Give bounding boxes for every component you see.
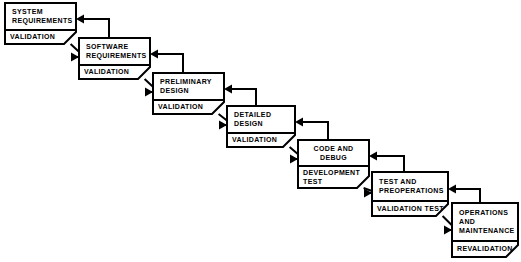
feedback-arrowhead <box>76 15 84 24</box>
forward-arrowhead <box>290 155 298 164</box>
waterfall-diagram-canvas: SYSTEMREQUIREMENTSVALIDATIONSOFTWAREREQU… <box>0 0 521 262</box>
stage-subsection-line: VALIDATION TEST <box>377 205 444 212</box>
stage-subsection-line: DEVELOPMENT <box>303 169 361 176</box>
stage-code-and-debug[interactable]: CODE ANDDEBUGDEVELOPMENTTEST <box>298 140 369 188</box>
feedback-arrow-fb-preliminary-to-software <box>150 50 183 74</box>
feedback-arrowhead <box>295 118 303 127</box>
feedback-arrow-fb-operations-to-test <box>448 185 480 204</box>
stage-title-line: SYSTEM <box>12 8 43 15</box>
feedback-arrowhead <box>150 50 158 59</box>
stage-subsection-line: REVALIDATION <box>457 245 513 252</box>
waterfall-diagram: SYSTEMREQUIREMENTSVALIDATIONSOFTWAREREQU… <box>0 0 521 262</box>
stage-system-requirements[interactable]: SYSTEMREQUIREMENTSVALIDATION <box>5 3 76 44</box>
feedback-arrow-fb-software-to-system <box>76 15 109 39</box>
forward-arrowhead <box>71 53 79 62</box>
stage-title-line: DESIGN <box>234 120 263 127</box>
feedback-arrowhead <box>369 152 377 161</box>
stage-title-line: TEST AND <box>379 178 417 185</box>
stage-software-requirements[interactable]: SOFTWAREREQUIREMENTSVALIDATION <box>79 38 150 79</box>
stage-title-line: PREOPERATIONS <box>379 187 444 194</box>
stage-subsection-line: VALIDATION <box>232 136 277 143</box>
stage-title-line: REQUIREMENTS <box>12 17 73 25</box>
stage-title-line: OPERATIONS <box>459 209 508 216</box>
stage-detailed-design[interactable]: DETAILEDDESIGNVALIDATION <box>227 106 295 147</box>
stage-preliminary-design[interactable]: PRELIMINARYDESIGNVALIDATION <box>153 73 224 114</box>
stage-operations-and-maintenance[interactable]: OPERATIONSANDMAINTENANCEREVALIDATION <box>452 203 518 257</box>
stage-title-line: SOFTWARE <box>86 43 128 50</box>
stage-title-line: CODE AND <box>314 145 354 152</box>
stage-subsection-line: VALIDATION <box>84 68 129 75</box>
forward-arrowhead <box>145 88 153 97</box>
stage-subsection-line: TEST <box>303 178 323 185</box>
feedback-arrow-fb-code-to-detailed <box>295 118 328 141</box>
stage-title-line: DESIGN <box>160 87 189 94</box>
stage-title-line: PRELIMINARY <box>160 78 212 85</box>
stage-title-line: MAINTENANCE <box>459 227 515 234</box>
stage-title-line: DEBUG <box>320 154 347 161</box>
stage-boxes-layer: SYSTEMREQUIREMENTSVALIDATIONSOFTWAREREQU… <box>5 3 518 257</box>
feedback-arrow-fb-test-to-code <box>369 152 404 173</box>
stage-title-line: DETAILED <box>234 111 271 118</box>
stage-title-line: REQUIREMENTS <box>86 52 147 60</box>
feedback-arrowhead <box>448 185 456 194</box>
stage-test-and-preoperations[interactable]: TEST ANDPREOPERATIONSVALIDATION TEST <box>372 172 448 216</box>
forward-arrowhead <box>444 226 452 235</box>
feedback-arrow-fb-detailed-to-preliminary <box>224 85 256 107</box>
stage-subsection-line: VALIDATION <box>10 33 55 40</box>
forward-arrowhead <box>219 121 227 130</box>
feedback-arrowhead <box>224 85 232 94</box>
stage-subsection-line: VALIDATION <box>158 103 203 110</box>
stage-title-line: AND <box>459 218 475 225</box>
